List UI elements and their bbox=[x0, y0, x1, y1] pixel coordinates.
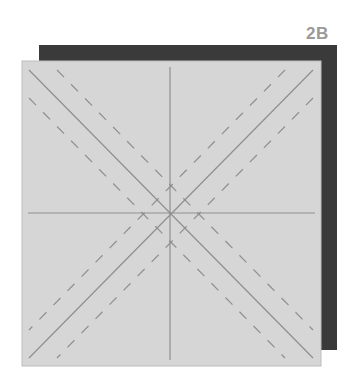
quilt-diagram bbox=[0, 0, 361, 388]
